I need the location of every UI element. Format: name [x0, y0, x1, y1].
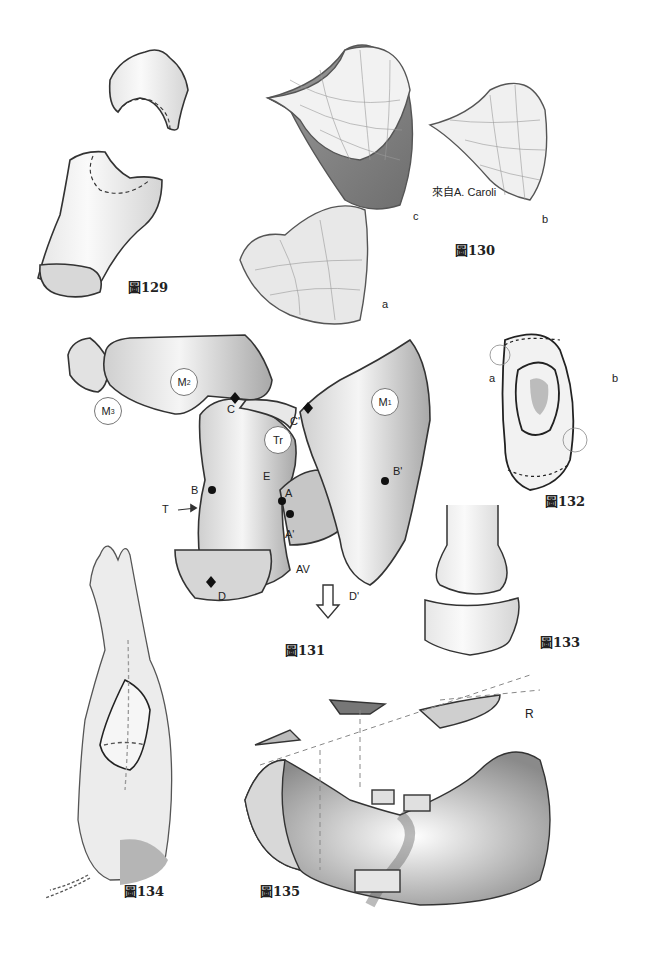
label-tr: Tr	[264, 426, 292, 454]
label-D: D	[218, 590, 226, 602]
fig133-art	[425, 505, 519, 655]
fig132-caption: 圖132	[545, 491, 585, 510]
fig135-caption: 圖135	[260, 881, 300, 900]
label-A: A	[285, 487, 292, 499]
fig135-label-R: R	[525, 707, 534, 721]
fig131-caption: 圖131	[285, 640, 325, 659]
fig133-caption: 圖133	[540, 632, 580, 651]
label-AV: AV	[296, 563, 310, 575]
fig129-art	[38, 50, 188, 297]
fig130-label-c: c	[413, 210, 419, 222]
label-m3: M3	[94, 397, 122, 425]
fig132-label-b: b	[612, 372, 618, 384]
label-C-prime: C'	[290, 415, 300, 427]
label-C: C	[227, 403, 235, 415]
fig130-caption: 圖130	[455, 240, 495, 259]
label-A-prime: A'	[285, 528, 294, 540]
label-m1: M1	[371, 388, 399, 416]
fig130-label-b: b	[542, 213, 548, 225]
fig130-credit: 來自A. Caroli	[432, 183, 496, 199]
label-E: E	[263, 470, 270, 482]
fig134-caption: 圖134	[124, 881, 164, 900]
fig134-art	[45, 546, 172, 898]
label-D-prime: D'	[349, 590, 359, 602]
label-B-prime: B'	[393, 465, 402, 477]
fig129-caption: 圖129	[128, 277, 168, 296]
fig135-art	[245, 675, 550, 905]
illustration-layer	[0, 0, 661, 954]
fig132-art	[490, 334, 587, 490]
fig132-label-a: a	[489, 372, 495, 384]
label-m2: M2	[170, 368, 198, 396]
fig130-label-a: a	[382, 298, 388, 310]
label-T: T	[162, 503, 169, 515]
fig130-art	[240, 45, 547, 324]
label-B: B	[191, 484, 198, 496]
